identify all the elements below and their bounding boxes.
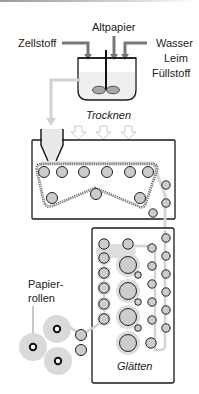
label-zellstoff: Zellstoff bbox=[18, 37, 57, 49]
label-glaetten: Glätten bbox=[117, 360, 152, 372]
label-papier: Papier- bbox=[28, 278, 64, 290]
label-wasser: Wasser bbox=[156, 37, 193, 49]
label-fuellstoff: Füllstoff bbox=[152, 67, 191, 79]
down-arrow-icon bbox=[71, 126, 136, 139]
label-leim: Leim bbox=[164, 52, 188, 64]
label-altpapier: Altpapier bbox=[92, 21, 136, 33]
paper-making-diagram: Zellstoff Altpapier Wasser Leim Füllstof… bbox=[0, 0, 199, 394]
paper-roll-icon bbox=[19, 315, 72, 375]
label-trocknen: Trocknen bbox=[86, 109, 131, 121]
pulp-flow-arrow bbox=[51, 80, 80, 120]
input-arrow-altpapier bbox=[110, 36, 118, 60]
roller-icon bbox=[76, 330, 87, 356]
label-rollen: rollen bbox=[28, 292, 55, 304]
